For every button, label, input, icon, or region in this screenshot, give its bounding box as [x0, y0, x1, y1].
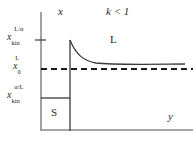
- tick-sub-2: kin: [11, 97, 19, 104]
- tick-label-x-zero-L: x0L: [13, 60, 25, 74]
- phase-diagram-figure: x y k < 1 S L xkinL/α x0L xkinα/L: [0, 0, 196, 141]
- region-label-solid: S: [51, 107, 57, 118]
- y-axis-label: y: [168, 111, 173, 122]
- tick-sup-0: L/α: [14, 25, 23, 32]
- x-axis-label: x: [58, 6, 63, 17]
- figure-canvas: [0, 0, 196, 141]
- tick-label-x-kin-alpha-over-L: xkinα/L: [7, 89, 29, 103]
- tick-sub-1: 0: [17, 68, 20, 75]
- tick-label-x-kin-L-over-alpha: xkinL/α: [7, 31, 29, 45]
- concentration-decay-curve: [70, 40, 185, 64]
- region-label-liquid: L: [110, 34, 117, 45]
- tick-sup-2: α/L: [14, 83, 23, 90]
- tick-sup-1: L: [15, 54, 19, 61]
- condition-label: k < 1: [106, 6, 129, 17]
- tick-sub-0: kin: [11, 39, 19, 46]
